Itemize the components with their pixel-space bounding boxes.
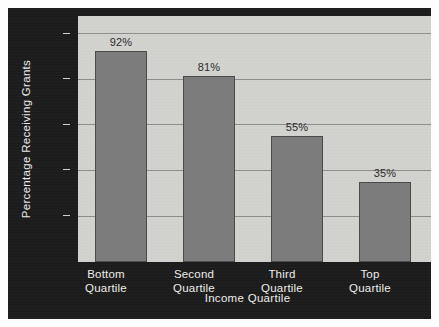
bar-bottom-quartile[interactable]	[95, 51, 147, 262]
bar-third-quartile[interactable]	[271, 136, 323, 262]
figure: Percentage Receiving Grants 100 80 60 40…	[0, 0, 439, 327]
bar-value-second-quartile: 81%	[174, 61, 244, 73]
y-tick-mark-100	[63, 33, 70, 34]
y-tick-mark-40	[63, 169, 70, 170]
bar-top-quartile[interactable]	[359, 182, 411, 262]
x-tick-label-top-quartile: Top Quartile	[315, 267, 425, 295]
x-tick-line1: Second	[174, 268, 214, 280]
y-tick-mark-80	[63, 78, 70, 79]
plot-area: 92% 81% 55% 35%	[78, 16, 431, 262]
gridline-100	[78, 33, 431, 34]
bar-value-third-quartile: 55%	[262, 121, 332, 133]
x-tick-line1: Third	[268, 268, 295, 280]
x-tick-line1: Bottom	[87, 268, 125, 280]
bar-value-bottom-quartile: 92%	[86, 36, 156, 48]
bar-second-quartile[interactable]	[183, 76, 235, 262]
y-tick-mark-60	[63, 124, 70, 125]
y-axis-title: Percentage Receiving Grants	[16, 16, 36, 262]
chart-panel: Percentage Receiving Grants 100 80 60 40…	[8, 8, 431, 319]
x-tick-line1: Top	[360, 268, 379, 280]
y-tick-mark-20	[63, 215, 70, 216]
x-axis-title: Income Quartile	[70, 292, 425, 304]
bar-value-top-quartile: 35%	[350, 167, 420, 179]
